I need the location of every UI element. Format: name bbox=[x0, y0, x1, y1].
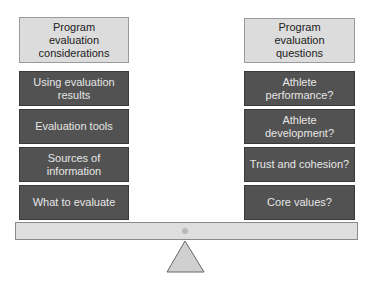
right-item-label: Athlete performance? bbox=[259, 76, 340, 102]
right-item-label: Athlete development? bbox=[259, 114, 340, 140]
left-header-label: Program evaluation considerations bbox=[34, 21, 114, 60]
right-item-box: Trust and cohesion? bbox=[244, 147, 355, 182]
left-item-label: Evaluation tools bbox=[35, 120, 113, 133]
left-item-box: Evaluation tools bbox=[19, 109, 129, 144]
left-item-box: What to evaluate bbox=[19, 185, 129, 220]
left-item-label: What to evaluate bbox=[33, 196, 116, 209]
left-item-label: Using evaluation results bbox=[26, 76, 122, 102]
fulcrum-triangle-icon bbox=[166, 240, 206, 274]
left-item-label: Sources of information bbox=[40, 152, 108, 178]
right-item-label: Trust and cohesion? bbox=[250, 158, 349, 171]
left-item-box: Using evaluation results bbox=[19, 71, 129, 106]
right-item-box: Athlete performance? bbox=[244, 71, 355, 106]
pivot-dot-icon bbox=[182, 228, 188, 234]
right-header-label: Program evaluation questions bbox=[265, 21, 334, 60]
right-item-label: Core values? bbox=[267, 196, 332, 209]
right-item-box: Athlete development? bbox=[244, 109, 355, 144]
left-header-box: Program evaluation considerations bbox=[19, 17, 129, 63]
right-header-box: Program evaluation questions bbox=[244, 18, 355, 63]
right-item-box: Core values? bbox=[244, 185, 355, 220]
left-item-box: Sources of information bbox=[19, 147, 129, 182]
